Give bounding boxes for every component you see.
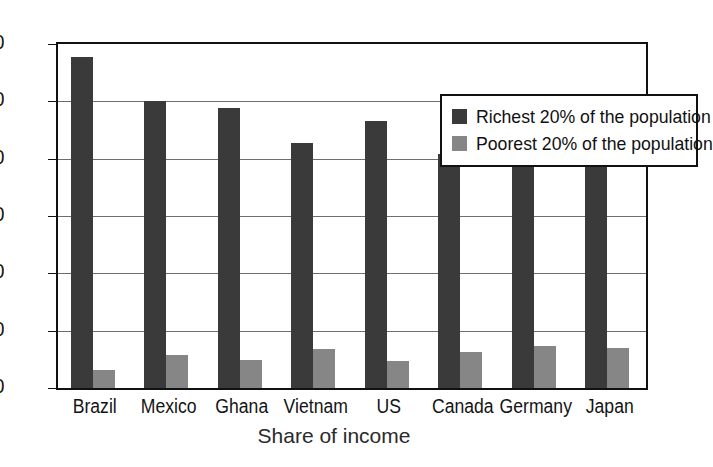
y-tick-label: 40 (0, 145, 4, 169)
x-axis-title: Share of income (0, 424, 668, 448)
y-tick-label: 30 (0, 202, 4, 226)
legend-swatch-poorest-icon (452, 136, 467, 151)
legend-item-richest: Richest 20% of the population (452, 103, 688, 130)
y-tick-label: 0 (0, 374, 4, 398)
bar-poorest (607, 348, 629, 388)
bar-richest (585, 162, 607, 388)
bar-poorest (534, 346, 556, 388)
x-tick-label: Germany (493, 395, 579, 418)
x-tick-label: Brazil (52, 395, 138, 418)
y-tick-label: 10 (0, 317, 4, 341)
bar-richest (291, 143, 313, 388)
bar-poorest (460, 352, 482, 388)
bar-poorest (93, 370, 115, 388)
y-tick-mark (48, 159, 56, 160)
bar-richest (144, 101, 166, 388)
legend-swatch-richest-icon (452, 109, 467, 124)
x-tick-label: Japan (566, 395, 652, 418)
bar-richest (365, 121, 387, 388)
plot-area: Richest 20% of the population Poorest 20… (56, 42, 648, 390)
y-tick-label: 60 (0, 30, 4, 54)
y-tick-mark (48, 388, 56, 389)
y-tick-mark (48, 216, 56, 217)
x-tick-label: US (346, 395, 432, 418)
y-tick-label: 50 (0, 87, 4, 111)
bar-richest (71, 57, 93, 388)
bar-richest (218, 108, 240, 388)
bar-poorest (240, 360, 262, 388)
bar-poorest (166, 355, 188, 388)
legend-label-poorest: Poorest 20% of the population (476, 133, 713, 155)
bar-poorest (387, 361, 409, 388)
chart-legend: Richest 20% of the population Poorest 20… (440, 94, 698, 167)
bar-poorest (313, 349, 335, 388)
y-tick-label: 20 (0, 259, 4, 283)
y-tick-mark (48, 331, 56, 332)
legend-item-poorest: Poorest 20% of the population (452, 130, 688, 157)
y-tick-mark (48, 273, 56, 274)
x-tick-label: Ghana (199, 395, 285, 418)
legend-label-richest: Richest 20% of the population (476, 106, 711, 128)
bar-richest (512, 162, 534, 388)
bar-richest (438, 154, 460, 388)
y-tick-mark (48, 101, 56, 102)
y-tick-mark (48, 44, 56, 45)
